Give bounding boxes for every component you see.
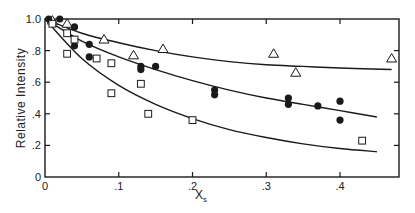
open-square-marker bbox=[64, 30, 71, 37]
open-square-marker bbox=[49, 20, 56, 27]
open-square-marker bbox=[71, 36, 78, 43]
open-triangle-marker bbox=[387, 54, 397, 63]
x-tick-label: .3 bbox=[262, 180, 271, 192]
open-square-marker bbox=[145, 110, 152, 117]
filled-circle-marker bbox=[285, 94, 292, 101]
open-triangle-marker bbox=[129, 50, 139, 59]
filled-circle-marker bbox=[137, 66, 144, 73]
open-square-marker bbox=[108, 90, 115, 97]
open-square-marker bbox=[108, 60, 115, 67]
x-tick-label: .1 bbox=[114, 180, 123, 192]
x-axis-title: Xs bbox=[195, 188, 207, 204]
filled-circle-marker bbox=[336, 98, 343, 105]
open-square-marker bbox=[137, 80, 144, 87]
y-tick-label: .2 bbox=[32, 139, 41, 151]
y-axis-title: Relative Intensity bbox=[14, 48, 28, 148]
data-points bbox=[45, 15, 397, 144]
filled-circle-marker bbox=[336, 117, 343, 124]
fit-curves bbox=[45, 19, 392, 152]
filled-circle-marker bbox=[211, 91, 218, 98]
filled-circle-marker bbox=[86, 41, 93, 48]
y-tick-label: 0 bbox=[35, 171, 41, 183]
y-tick-label: 1.0 bbox=[26, 13, 41, 25]
open-triangle-marker bbox=[291, 68, 301, 77]
open-square-marker bbox=[64, 50, 71, 57]
x-tick-label: .4 bbox=[335, 180, 344, 192]
x-axis-title-subscript: s bbox=[203, 195, 207, 204]
filled-circle-marker bbox=[314, 102, 321, 109]
x-axis-title-main: X bbox=[195, 188, 203, 202]
filled-circle-marker bbox=[152, 63, 159, 70]
plot-frame bbox=[45, 19, 399, 177]
y-tick-label: .4 bbox=[32, 108, 41, 120]
chart: 0.1.2.3.4 0.2.4.6.81.0 Relative Intensit… bbox=[0, 0, 415, 213]
filled-circle-marker bbox=[285, 101, 292, 108]
x-tick-label: 0 bbox=[42, 180, 48, 192]
y-tick-label: .8 bbox=[32, 45, 41, 57]
open-triangle-marker bbox=[158, 44, 168, 53]
open-triangle-marker bbox=[269, 49, 279, 58]
filled-circle-marker bbox=[71, 23, 78, 30]
open-square-marker bbox=[93, 55, 100, 62]
filled-circle-marker bbox=[56, 15, 63, 22]
filled-circle-marker bbox=[86, 53, 93, 60]
open-square-marker bbox=[189, 117, 196, 124]
open-square-marker bbox=[359, 137, 366, 144]
y-axis-ticks: 0.2.4.6.81.0 bbox=[26, 13, 399, 183]
plot-border bbox=[45, 19, 399, 177]
y-tick-label: .6 bbox=[32, 76, 41, 88]
open-triangle-marker bbox=[62, 19, 72, 28]
